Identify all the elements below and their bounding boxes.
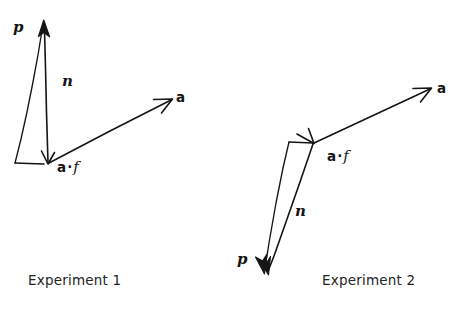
figure-root: p n a a·f Experiment 1 p n a a·f Experim…: [0, 0, 466, 315]
vector-a-shaft-exp2: [313, 89, 431, 144]
vector-a-shaft-exp1: [48, 100, 172, 164]
label-a-dot-f-exp1: a·f: [57, 160, 79, 175]
vector-p-arrowhead-exp2: [256, 254, 268, 274]
label-a-dot-f-exp1-f: f: [73, 158, 79, 176]
vector-diagram-svg: [0, 0, 466, 315]
vector-p-top-edge-exp2: [289, 142, 313, 143]
vector-p-left-edge-exp1: [15, 22, 44, 163]
vector-n-shaft-exp1: [44, 24, 48, 163]
caption-experiment-1: Experiment 1: [28, 272, 121, 288]
label-a-dot-f-exp2: a·f: [327, 149, 349, 164]
label-a-dot-f-exp2-a: a: [327, 148, 336, 164]
experiment-1-drawing: [15, 20, 173, 164]
label-vector-a-exp1: a: [176, 91, 185, 105]
label-a-dot-f-exp2-f: f: [343, 147, 349, 165]
label-a-dot-f-exp1-a: a: [57, 159, 66, 175]
label-vector-p-exp2: p: [237, 252, 248, 267]
vector-p-base-edge-exp1: [15, 163, 44, 164]
experiment-2-drawing: [256, 88, 432, 275]
caption-experiment-2: Experiment 2: [322, 272, 415, 288]
label-vector-a-exp2: a: [437, 82, 446, 96]
label-vector-n-exp2: n: [295, 204, 306, 219]
label-vector-n-exp1: n: [62, 74, 73, 89]
apex-arrowhead-exp2: [297, 129, 314, 144]
label-vector-p-exp1: p: [13, 20, 24, 35]
